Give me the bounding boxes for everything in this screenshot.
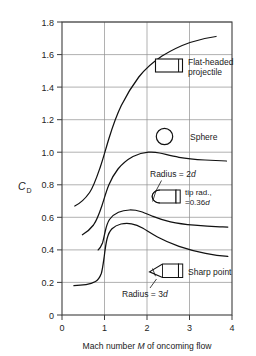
drag-coefficient-chart: 1.8 1.6 1.4 1.2 1.0 0.8 0.6 0.4 0.2 0 0 … xyxy=(0,0,256,356)
tip-rad-label-line2-pre: =0.36 xyxy=(185,198,206,207)
ytick-label-0: 0 xyxy=(49,311,54,321)
sharp-point-band xyxy=(179,264,183,278)
ytick-label-0.4: 0.4 xyxy=(41,245,54,255)
sphere-label: Sphere xyxy=(190,132,218,142)
xtick-label-0: 0 xyxy=(59,323,64,333)
xtick-label-1: 1 xyxy=(102,323,107,333)
sharp-point-label: Sharp point xyxy=(188,267,232,277)
tip-rad-label-line1: tip rad., xyxy=(185,188,212,197)
x-axis-title-post: of oncoming flow xyxy=(145,341,213,351)
radius-2d-label-pre: Radius = 2 xyxy=(150,169,191,179)
tip-rad-label-line2-d: d xyxy=(205,198,210,207)
sphere-icon xyxy=(156,128,172,144)
chart-background xyxy=(0,0,256,356)
radius-3d-label-pre: Radius = 3 xyxy=(122,289,163,299)
ytick-label-1.4: 1.4 xyxy=(41,83,54,93)
ytick-label-0.2: 0.2 xyxy=(41,278,54,288)
xtick-label-2: 2 xyxy=(144,323,149,333)
x-axis-title: Mach number M of oncoming flow xyxy=(83,341,213,351)
flat-headed-label-line1: Flat-headed xyxy=(188,57,234,67)
xtick-label-4: 4 xyxy=(229,323,234,333)
ytick-label-1.0: 1.0 xyxy=(41,148,54,158)
x-axis-title-pre: Mach number xyxy=(83,341,138,351)
radius-3d-label: Radius = 3d xyxy=(122,289,168,299)
flat-headed-projectile-icon xyxy=(156,59,183,72)
tip-rad-label-line2: =0.36d xyxy=(185,198,210,207)
round-nose-projectile-icon xyxy=(152,190,180,203)
y-axis-title-subscript: D xyxy=(27,187,32,194)
ytick-label-1.6: 1.6 xyxy=(41,50,54,60)
y-axis-title-base: C xyxy=(18,180,26,192)
radius-2d-label: Radius = 2d xyxy=(150,169,196,179)
round-nose-band xyxy=(176,190,180,203)
annotation-sharp-point: Sharp point xyxy=(150,264,233,278)
ytick-label-0.6: 0.6 xyxy=(41,213,54,223)
radius-2d-label-d: d xyxy=(191,169,196,179)
ytick-label-1.2: 1.2 xyxy=(41,115,54,125)
ytick-label-1.8: 1.8 xyxy=(41,18,54,28)
flat-headed-label-line2: projectile xyxy=(188,67,222,77)
ytick-label-0.8: 0.8 xyxy=(41,180,54,190)
xtick-label-3: 3 xyxy=(187,323,192,333)
chart-svg: 1.8 1.6 1.4 1.2 1.0 0.8 0.6 0.4 0.2 0 0 … xyxy=(0,0,256,356)
radius-3d-label-d: d xyxy=(163,289,168,299)
